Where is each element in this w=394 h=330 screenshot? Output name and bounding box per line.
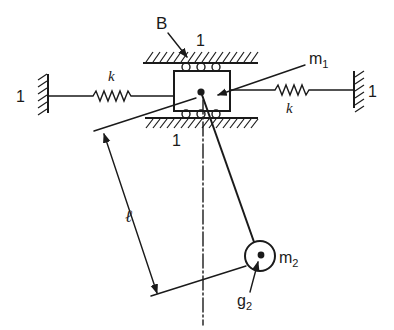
label-mass1: m1 <box>309 50 328 70</box>
label-bearing: B <box>156 14 167 33</box>
label-cg2: g2 <box>237 292 252 312</box>
bottom-guide-wall <box>145 118 258 128</box>
g2-leader-arrow <box>250 262 258 292</box>
label-ground-top: 1 <box>196 32 205 49</box>
label-ground-right: 1 <box>368 83 377 100</box>
right-ground-wall <box>354 71 364 112</box>
cg2-point <box>258 252 265 259</box>
pendulum-rod <box>201 92 254 242</box>
label-length: ℓ <box>125 207 132 226</box>
top-guide-wall <box>143 52 258 63</box>
mechanism-diagram: B 1 1 1 1 k k m1 m2 g2 ℓ <box>0 0 394 330</box>
left-spring <box>48 91 174 101</box>
label-spring-left: k <box>108 68 115 84</box>
lower-reference-line <box>151 266 246 296</box>
bearing-leader-arrow <box>168 33 187 57</box>
right-spring <box>230 85 354 95</box>
left-ground-wall <box>38 74 48 115</box>
label-mass2: m2 <box>279 249 298 269</box>
label-ground-left: 1 <box>16 88 25 105</box>
label-ground-bottom: 1 <box>172 132 181 149</box>
upper-reference-line <box>94 98 196 131</box>
label-spring-right: k <box>286 100 293 116</box>
